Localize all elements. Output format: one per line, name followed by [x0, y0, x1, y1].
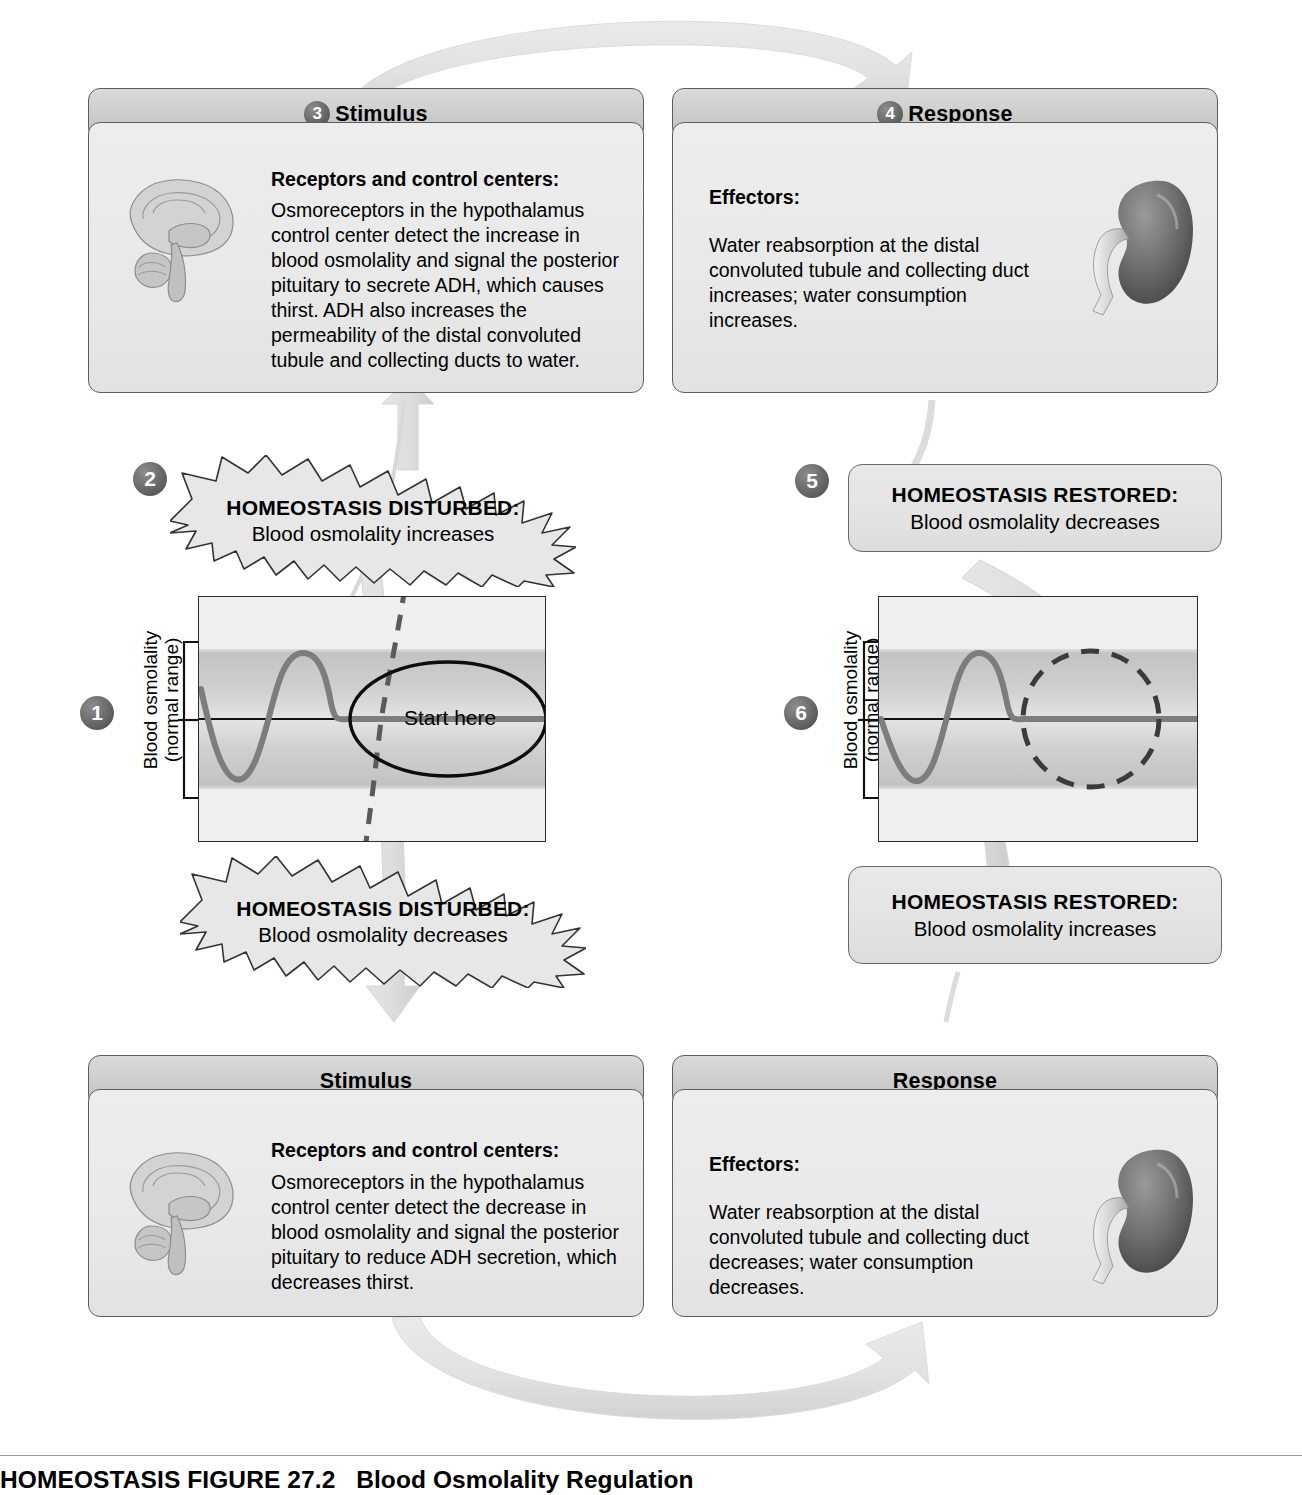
step-badge-2: 2 [133, 462, 167, 496]
panel-stimulus-bottom[interactable]: Stimulus Re [88, 1055, 644, 1317]
left-axis-line1: Blood osmolality [140, 631, 161, 769]
bottom-cycle-arrow [392, 1316, 929, 1419]
panel-response-top-heading: Effectors: [709, 185, 800, 209]
panel-response-top[interactable]: 4 Response Effectors: Water reabsorption… [672, 88, 1218, 393]
brain-icon [107, 1134, 257, 1284]
panel-response-top-text: Water reabsorption at the distal convolu… [709, 233, 1039, 333]
panel-response-bottom[interactable]: Response Effectors: Water reabsorption a… [672, 1055, 1218, 1317]
panel-stimulus-top-heading: Receptors and control centers: [271, 167, 623, 191]
right-graph-plot [879, 597, 1198, 842]
start-here-label: Start here [404, 706, 496, 730]
starburst-shape-bottom [180, 856, 586, 988]
figure-caption: HOMEOSTASIS FIGURE 27.2 Blood Osmolality… [0, 1466, 1302, 1494]
panel-stimulus-top-text: Osmoreceptors in the hypothalamus contro… [271, 198, 631, 373]
left-graph-axis-label: Blood osmolality (normal range) [140, 600, 183, 800]
caption-divider [0, 1455, 1302, 1456]
callout-homeostasis-disturbed-top: HOMEOSTASIS DISTURBED: Blood osmolality … [170, 455, 576, 587]
panel-response-bottom-text: Water reabsorption at the distal convolu… [709, 1200, 1039, 1300]
panel-stimulus-bottom-text: Osmoreceptors in the hypothalamus contro… [271, 1170, 633, 1295]
callout-restored-top-line1: HOMEOSTASIS RESTORED: [892, 483, 1179, 507]
panel-response-bottom-heading: Effectors: [709, 1152, 800, 1176]
step-badge-1: 1 [80, 696, 114, 730]
callout-homeostasis-restored-top: HOMEOSTASIS RESTORED: Blood osmolality d… [848, 464, 1222, 552]
left-normal-range-bracket [178, 640, 200, 800]
right-graph-panel [878, 596, 1198, 842]
kidney-icon [1071, 169, 1201, 329]
panel-response-top-body: Effectors: Water reabsorption at the dis… [672, 122, 1218, 393]
kidney-icon [1071, 1138, 1201, 1298]
connector-response-to-restored [914, 400, 932, 466]
figure-canvas: 3 Stimulus [0, 0, 1302, 1495]
starburst-shape-top [170, 455, 576, 587]
panel-stimulus-bottom-body: Receptors and control centers: Osmorecep… [88, 1089, 644, 1317]
panel-response-bottom-body: Effectors: Water reabsorption at the dis… [672, 1089, 1218, 1317]
brain-icon [107, 161, 257, 311]
callout-restored-bottom-line2: Blood osmolality increases [914, 917, 1157, 941]
callout-homeostasis-restored-bottom: HOMEOSTASIS RESTORED: Blood osmolality i… [848, 866, 1222, 964]
right-normal-range-bracket [858, 640, 880, 800]
figure-caption-label: HOMEOSTASIS FIGURE 27.2 [0, 1466, 335, 1493]
panel-stimulus-top-body: Receptors and control centers: Osmorecep… [88, 122, 644, 393]
connector-response-bottom [946, 972, 958, 1022]
figure-caption-title: Blood Osmolality Regulation [356, 1466, 694, 1493]
callout-restored-top-line2: Blood osmolality decreases [910, 510, 1160, 534]
step-badge-6: 6 [784, 696, 818, 730]
callout-homeostasis-disturbed-bottom: HOMEOSTASIS DISTURBED: Blood osmolality … [180, 856, 586, 988]
panel-stimulus-top[interactable]: 3 Stimulus [88, 88, 644, 393]
callout-restored-bottom-line1: HOMEOSTASIS RESTORED: [892, 890, 1179, 914]
step-badge-5: 5 [795, 464, 829, 498]
panel-stimulus-bottom-heading: Receptors and control centers: [271, 1138, 623, 1162]
